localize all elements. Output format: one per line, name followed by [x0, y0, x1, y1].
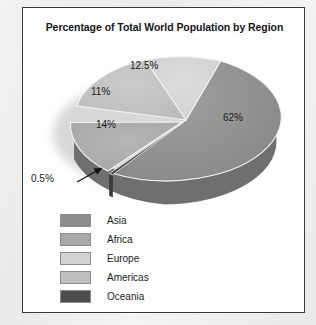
legend-label-americas: Americas: [107, 273, 149, 283]
slice-label-europe: 12.5%: [130, 60, 158, 71]
chart-title: Percentage of Total World Population by …: [23, 21, 305, 33]
legend-label-europe: Europe: [107, 254, 139, 264]
legend-swatch-africa: [60, 233, 91, 246]
legend-item-oceania: Oceania: [60, 287, 240, 306]
slice-label-africa: 14%: [96, 119, 116, 130]
slice-label-asia: 62%: [223, 112, 243, 123]
legend-item-europe: Europe: [60, 249, 240, 268]
legend-swatch-europe: [60, 252, 91, 265]
legend-label-africa: Africa: [107, 235, 133, 245]
figure-panel: Percentage of Total World Population by …: [22, 7, 305, 313]
pie-chart-svg: [23, 42, 305, 207]
legend-swatch-americas: [60, 271, 91, 284]
pie-chart: 62% 12.5% 11% 14% 0.5%: [23, 42, 305, 207]
pie-side-oceania: [110, 174, 113, 198]
legend-item-africa: Africa: [60, 230, 240, 249]
slice-label-americas: 11%: [91, 86, 110, 97]
legend-item-asia: Asia: [60, 211, 240, 230]
legend: Asia Africa Europe Americas Oceania: [60, 211, 240, 306]
legend-label-oceania: Oceania: [107, 292, 144, 302]
legend-label-asia: Asia: [107, 216, 126, 226]
legend-swatch-asia: [60, 214, 91, 227]
legend-swatch-oceania: [60, 290, 91, 303]
slice-label-oceania: 0.5%: [31, 173, 54, 184]
legend-item-americas: Americas: [60, 268, 240, 287]
